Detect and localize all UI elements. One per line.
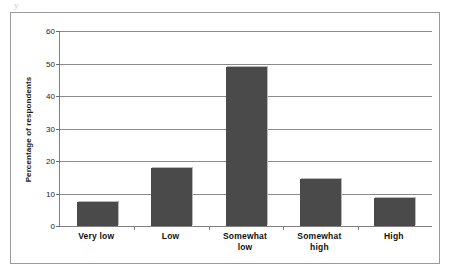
x-tick-label-line: Somewhat xyxy=(282,231,356,242)
x-tick-label: Somewhathigh xyxy=(282,231,356,253)
bar-slot xyxy=(134,31,208,226)
x-tick-label: High xyxy=(357,231,431,253)
category-separator xyxy=(358,226,359,230)
y-axis-title: Percentage of respondents xyxy=(24,50,33,210)
y-tick-label: 40 xyxy=(33,92,55,101)
y-tick-mark xyxy=(56,226,60,227)
x-tick-label-line: Somewhat xyxy=(208,231,282,242)
plot-area xyxy=(59,31,432,227)
scan-artifact: y xyxy=(14,1,28,10)
category-separator xyxy=(209,226,210,230)
bar[interactable] xyxy=(300,179,341,226)
chart-frame: Percentage of respondents 0102030405060 … xyxy=(10,12,440,264)
bar-series xyxy=(60,31,432,226)
bar[interactable] xyxy=(226,67,267,226)
x-tick-label: Very low xyxy=(59,231,133,253)
y-axis-tick-labels: 0102030405060 xyxy=(33,13,55,265)
y-tick-label: 10 xyxy=(33,189,55,198)
category-separator xyxy=(283,226,284,230)
x-tick-label: Somewhatlow xyxy=(208,231,282,253)
bar-slot xyxy=(60,31,134,226)
x-tick-label-line: high xyxy=(282,242,356,253)
bar[interactable] xyxy=(77,202,118,226)
y-tick-label: 20 xyxy=(33,157,55,166)
x-tick-label-line: High xyxy=(357,231,431,242)
y-tick-label: 0 xyxy=(33,222,55,231)
bar-slot xyxy=(358,31,432,226)
bar[interactable] xyxy=(374,198,415,226)
x-tick-label-line: Low xyxy=(133,231,207,242)
y-tick-label: 50 xyxy=(33,59,55,68)
x-tick-label-line: low xyxy=(208,242,282,253)
x-axis-tick-labels: Very lowLowSomewhatlowSomewhathighHigh xyxy=(59,231,431,253)
bar[interactable] xyxy=(151,168,192,227)
bar-slot xyxy=(209,31,283,226)
x-tick-label-line: Very low xyxy=(59,231,133,242)
category-separator xyxy=(134,226,135,230)
bar-slot xyxy=(283,31,357,226)
x-tick-label: Low xyxy=(133,231,207,253)
y-tick-label: 60 xyxy=(33,27,55,36)
y-tick-label: 30 xyxy=(33,124,55,133)
